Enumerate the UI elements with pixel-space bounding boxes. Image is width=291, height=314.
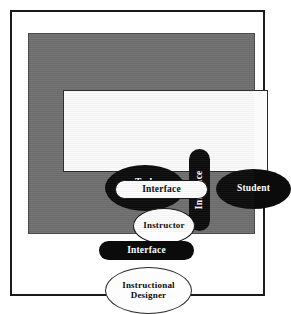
- node-instructor[interactable]: Instructor: [133, 208, 195, 244]
- node-interface-middle[interactable]: Interface: [115, 180, 208, 199]
- node-instructor-label: Instructor: [143, 221, 185, 230]
- gray-system-panel: Task Environment Interface Student Inter…: [28, 33, 255, 234]
- node-student-label: Student: [237, 184, 270, 194]
- node-interface-bottom[interactable]: Interface: [99, 241, 194, 260]
- outer-frame-border: Task Environment Interface Student Inter…: [10, 10, 265, 296]
- node-instructional-designer-label: Instructional Designer: [122, 281, 175, 299]
- node-student[interactable]: Student: [216, 169, 291, 209]
- node-interface-bottom-label: Interface: [127, 246, 166, 256]
- node-instructional-designer[interactable]: Instructional Designer: [105, 267, 192, 314]
- white-inner-panel: Task Environment Interface Student: [63, 90, 268, 172]
- node-interface-middle-label: Interface: [142, 185, 181, 195]
